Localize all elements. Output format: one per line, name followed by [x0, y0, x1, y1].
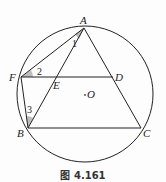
- diagram-canvas: A F E D O B C 1 2 3: [0, 0, 166, 182]
- center-point: [84, 94, 86, 96]
- label-C: C: [143, 127, 151, 139]
- figure-caption: 图 4.161: [0, 167, 166, 182]
- angle-label-1: 1: [72, 38, 77, 49]
- segment-AC: [84, 28, 141, 128]
- geometry-figure: A F E D O B C 1 2 3 图 4.161: [0, 0, 166, 182]
- label-F: F: [8, 71, 16, 83]
- segment-AF: [21, 28, 84, 77]
- label-A: A: [79, 14, 87, 26]
- label-E: E: [52, 79, 60, 91]
- circumcircle: [17, 26, 153, 162]
- angle-label-3: 3: [27, 104, 32, 115]
- label-D: D: [114, 71, 123, 83]
- angle-label-2: 2: [37, 66, 42, 77]
- label-O: O: [87, 88, 95, 100]
- label-B: B: [17, 127, 24, 139]
